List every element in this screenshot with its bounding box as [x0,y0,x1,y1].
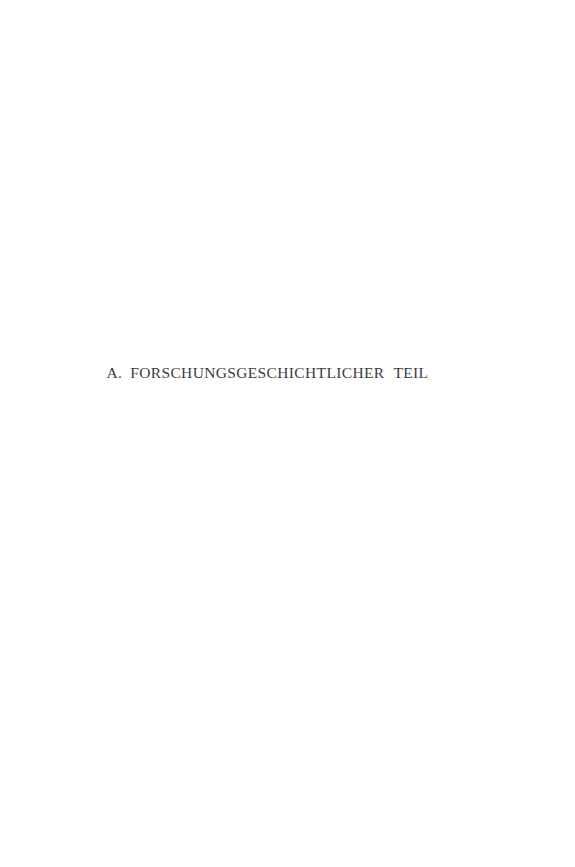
part-title-word-1: FORSCHUNGSGESCHICHTLICHER [130,364,384,381]
document-page: A.FORSCHUNGSGESCHICHTLICHERTEIL [0,0,575,867]
part-title-word-2: TEIL [393,364,428,381]
part-title-block: A.FORSCHUNGSGESCHICHTLICHERTEIL [0,363,575,382]
part-title: A.FORSCHUNGSGESCHICHTLICHERTEIL [107,363,429,382]
part-title-label: A. [107,364,123,381]
